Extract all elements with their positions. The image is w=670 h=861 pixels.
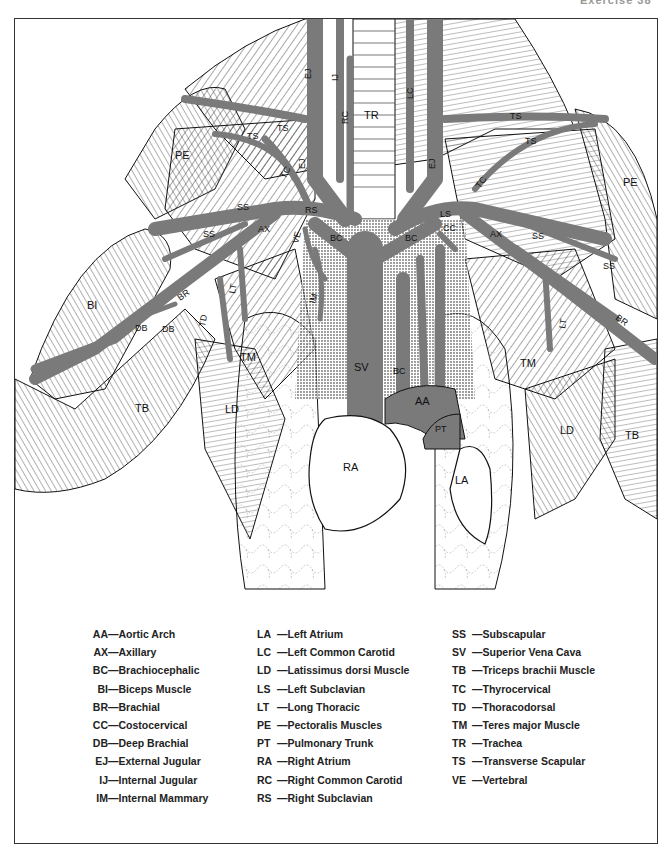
legend-item: SS—Subscapular [452,628,595,646]
label-tb-right: TB [625,429,639,441]
label-rs: RS [305,205,318,215]
legend-item: LA—Left Atrium [257,628,409,646]
label-bc-right: BC [405,233,418,243]
legend-item: LC—Left Common Carotid [257,646,409,664]
label-cc: CC [443,223,456,233]
legend-item: PE—Pectoralis Muscles [257,719,409,737]
label-pe-right: PE [623,176,638,188]
anatomy-illustration: TR EJ IJ RC LC EJ EJ TS TS TC TS TS TC R… [15,19,657,591]
label-pt: PT [435,424,447,434]
label-ra: RA [343,461,359,473]
label-ve: VE [290,230,303,244]
label-pe-left: PE [175,149,190,161]
label-lc: LC [405,87,415,99]
label-db-2: DB [162,324,175,334]
label-ld-left: LD [225,403,239,415]
label-td: TD [197,313,209,327]
label-bi: BI [87,299,97,311]
legend-item: RA—Right Atrium [257,755,409,773]
legend-item: TD—Thoracodorsal [452,701,595,719]
label-ss-right-2: SS [603,261,615,271]
anatomy-svg: TR EJ IJ RC LC EJ EJ TS TS TC TS TS TC R… [15,19,657,591]
label-bc-lower: BC [393,366,406,376]
label-ej: EJ [303,68,313,79]
vessel-lc-lower [420,259,425,399]
label-ij: IJ [330,74,340,81]
label-db-1: DB [135,323,148,333]
legend-column-3: SS—Subscapular SV—Superior Vena Cava TB—… [452,628,595,792]
label-ts-right-2: TS [525,136,537,146]
legend-item: BC—Brachiocephalic [78,664,208,682]
label-ax-left: AX [258,224,270,234]
label-ts-right: TS [510,111,522,121]
legend-item: CC—Costocervical [78,719,208,737]
legend-item: LT—Long Thoracic [257,701,409,719]
legend-item: BI—Biceps Muscle [78,683,208,701]
legend-item: AA—Aortic Arch [78,628,208,646]
legend-item: LD—Latissimus dorsi Muscle [257,664,409,682]
legend-item: LS—Left Subclavian [257,683,409,701]
page-header-text: Exercise 38 [580,0,652,6]
legend-item: PT—Pulmonary Trunk [257,737,409,755]
legend-item: TS—Transverse Scapular [452,755,595,773]
label-ss-left-2: SS [203,229,215,239]
legend-item: EJ—External Jugular [78,755,208,773]
legend-item: BR—Brachial [78,701,208,719]
legend-column-1: AA—Aortic Arch AX—Axillary BC—Brachiocep… [78,628,208,810]
label-ax-right: AX [490,229,502,239]
page-header: Exercise 38 [420,0,670,12]
legend-item: VE—Vertebral [452,774,595,792]
legend-item: TC—Thyrocervical [452,683,595,701]
label-ss-right: SS [532,231,544,241]
label-tm-right: TM [520,357,536,369]
label-ss-left: SS [237,202,249,212]
legend-item: RC—Right Common Carotid [257,774,409,792]
legend-column-2: LA—Left Atrium LC—Left Common Carotid LD… [257,628,409,810]
label-rc: RC [340,111,350,124]
label-trachea: TR [364,109,379,121]
label-ls: LS [440,209,451,219]
legend-item: TM—Teres major Muscle [452,719,595,737]
label-tb-left: TB [135,402,149,414]
label-aa: AA [415,395,430,407]
label-ej-right: EJ [427,158,437,169]
label-ld-right: LD [560,424,574,436]
vessel-ts-right-upper [445,117,605,120]
legend-item: RS—Right Subclavian [257,792,409,810]
legend-item: DB—Deep Brachial [78,737,208,755]
label-ts-left-2: TS [247,131,259,141]
label-ej-left-lower: EJ [297,158,307,169]
label-ts-left: TS [277,123,289,133]
legend-item: SV—Superior Vena Cava [452,646,595,664]
right-atrium [309,416,406,531]
label-bc-left: BC [330,233,343,243]
legend-item: IM—Internal Mammary [78,792,208,810]
label-sv: SV [354,361,369,373]
label-la: LA [455,474,469,486]
legend-item: AX—Axillary [78,646,208,664]
label-tm-left: TM [240,351,256,363]
legend-item: TR—Trachea [452,737,595,755]
legend-item: IJ—Internal Jugular [78,774,208,792]
legend-item: TB—Triceps brachii Muscle [452,664,595,682]
